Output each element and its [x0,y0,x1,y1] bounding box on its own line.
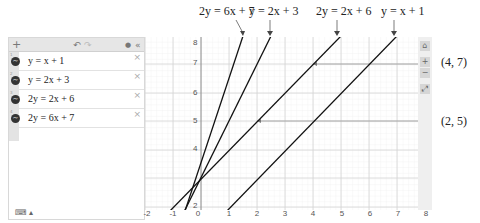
y-tick-label: 2 [193,201,197,210]
x-tick-label: 8 [424,209,428,218]
zoom-out-button[interactable]: − [420,68,430,78]
graphics-view[interactable] [145,37,432,210]
toggle-visibility-icon[interactable]: ~ [11,114,20,123]
redo-icon[interactable]: ↷ [84,38,92,52]
collapse-panel-icon[interactable]: « [135,38,141,52]
algebra-row-1[interactable]: 1 ~ y = x + 1 × [9,52,144,71]
annotation-point-4-7: (4, 7) [441,55,467,70]
zoom-controls: ⌂ + − ⤢ [418,37,432,210]
x-tick-label: -1 [169,209,176,218]
algebra-row-2[interactable]: 2 ~ y = 2x + 3 × [9,71,144,90]
toggle-visibility-icon[interactable]: ~ [11,95,20,104]
expression-text[interactable]: y = 2x + 3 [28,74,69,85]
x-tick-label: 6 [368,209,372,218]
add-icon[interactable]: + [12,38,21,52]
expression-text[interactable]: y = x + 1 [28,55,64,66]
undo-icon[interactable]: ↶ [73,38,81,52]
toggle-visibility-icon[interactable]: ~ [11,76,20,85]
x-tick-label: 4 [311,209,315,218]
expression-text[interactable]: 2y = 6x + 7 [28,112,74,123]
settings-icon[interactable]: ● [125,38,131,52]
algebra-row-3[interactable]: 3 ~ 2y = 2x + 6 × [9,90,144,109]
delete-icon[interactable]: × [133,71,141,81]
expression-text[interactable]: 2y = 2x + 6 [28,93,74,104]
fullscreen-button[interactable]: ⤢ [420,84,430,94]
delete-icon[interactable]: × [133,90,141,100]
x-tick-label: 1 [227,209,231,218]
delete-icon[interactable]: × [133,109,141,119]
y-tick-label: 8 [193,38,197,47]
home-view-button[interactable]: ⌂ [420,41,430,51]
algebra-row-4[interactable]: 4 ~ 2y = 6x + 7 × [9,109,144,128]
annotation-point-2-5: (2, 5) [441,114,467,129]
y-tick-label: 5 [193,116,197,125]
keyboard-button[interactable]: ⌨ ▴ [15,208,40,218]
x-tick-label: 3 [283,209,287,218]
y-tick-label: 4 [193,144,197,153]
y-tick-label: 7 [193,58,197,67]
x-tick-label: -2 [143,209,150,218]
x-tick-label: 2 [255,209,259,218]
x-tick-label: 0 [196,209,200,218]
x-tick-label: 7 [396,209,400,218]
annotation-arrows [0,0,480,40]
y-tick-label: 6 [193,88,197,97]
algebra-toolbar: + ↶ ↷ ● « [9,38,144,52]
algebra-panel: + ↶ ↷ ● « 1 ~ y = x + 1 × 2 ~ y = 2x + 3… [8,37,145,220]
x-tick-label: 5 [340,209,344,218]
toggle-visibility-icon[interactable]: ~ [11,57,20,66]
zoom-in-button[interactable]: + [420,57,430,67]
delete-icon[interactable]: × [133,52,141,62]
